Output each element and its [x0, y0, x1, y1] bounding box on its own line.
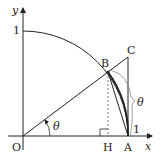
- arc-angle-label: θ: [137, 96, 144, 109]
- point-C-label: C: [127, 44, 135, 57]
- point-B: [107, 71, 110, 74]
- point-A-label: A: [123, 141, 133, 154]
- arc-length-label: 1: [133, 123, 140, 136]
- y-tick-1: 1: [13, 24, 20, 37]
- unit-circle-arc: [23, 31, 128, 136]
- y-axis-label: y: [11, 4, 19, 17]
- origin-label: O: [12, 141, 21, 154]
- line-OC: [23, 57, 128, 136]
- angle-arc-O: [45, 120, 50, 136]
- angle-O-label: θ: [53, 120, 60, 133]
- chord-BA: [108, 72, 128, 136]
- point-B-label: B: [101, 57, 109, 70]
- unit-circle-diagram: y x 1 O B C H A θ θ 1: [0, 0, 163, 164]
- x-axis-label: x: [145, 140, 152, 153]
- point-H-label: H: [103, 141, 113, 154]
- right-angle-mark: [100, 129, 108, 136]
